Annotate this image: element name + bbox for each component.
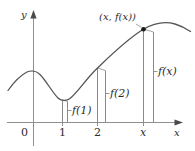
marked-point-label: (x, f(x)) — [99, 12, 136, 22]
bar-f-of-1 — [63, 100, 68, 123]
point-label-leader — [136, 24, 142, 28]
marked-point-dot — [141, 27, 146, 32]
x-axis-arrowhead — [175, 119, 184, 125]
bar-f-of-x — [144, 29, 154, 123]
function-graph-figure: y x 0 1 2 x (x, f(x)) f(1) f(2) f(x) — [0, 0, 195, 151]
f-of-2-label: f(2) — [110, 88, 130, 99]
x-tick-label-1: 1 — [59, 127, 66, 138]
function-curve — [8, 23, 191, 100]
bar-f-of-2 — [98, 68, 106, 123]
x-tick-label-2: 2 — [94, 127, 101, 138]
origin-tick-label: 0 — [21, 127, 28, 138]
f-of-x-label: f(x) — [158, 66, 177, 77]
x-axis-label: x — [174, 128, 180, 138]
f-of-1-label: f(1) — [72, 105, 92, 116]
x-tick-label-x: x — [140, 127, 146, 138]
y-axis-label: y — [21, 10, 27, 20]
y-axis-arrowhead — [30, 10, 36, 19]
